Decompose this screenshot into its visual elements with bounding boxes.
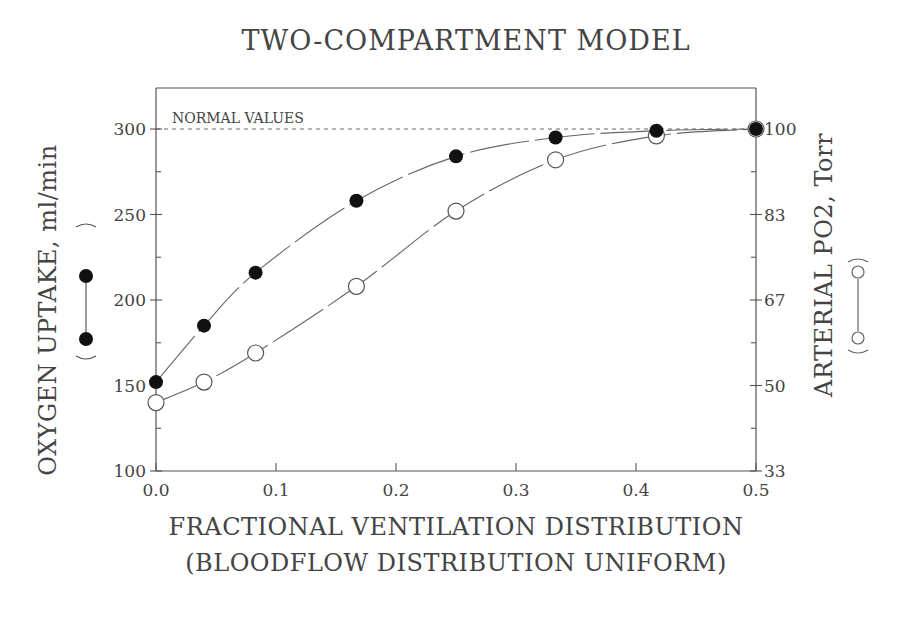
x-tick-label: 0.2	[382, 480, 409, 500]
open-circle-marker	[348, 278, 364, 294]
filled-circle-marker	[349, 194, 363, 208]
filled-circle-marker	[197, 319, 211, 333]
open-circle-marker	[248, 345, 264, 361]
y-left-tick-label: 250	[114, 205, 146, 225]
y-right-tick-label: 67	[764, 290, 786, 310]
open-circle-marker	[196, 374, 212, 390]
y-right-tick-label: 50	[764, 376, 786, 396]
y-left-legend-filled-circle	[76, 224, 96, 359]
x-axis-label: FRACTIONAL VENTILATION DISTRIBUTION	[169, 513, 744, 541]
x-axis-label-line2: (BLOODFLOW DISTRIBUTION UNIFORM)	[185, 549, 727, 577]
x-tick-label: 0.4	[622, 480, 649, 500]
filled-circle-marker	[449, 149, 463, 163]
y-right-tick-label: 100	[764, 119, 796, 139]
arterial-po2-curve	[156, 129, 756, 403]
oxygen-uptake-curve	[156, 129, 756, 382]
filled-circle-marker	[149, 375, 163, 389]
filled-circle-marker	[749, 122, 763, 136]
x-tick-label: 0.1	[262, 480, 289, 500]
filled-circle-marker	[249, 266, 263, 280]
y-right-tick-label: 83	[764, 205, 786, 225]
data-markers	[148, 121, 764, 411]
y-right-axis-label: ARTERIAL PO2, Torr	[810, 133, 838, 398]
normal-values-label: NORMAL VALUES	[172, 110, 304, 126]
chart: TWO-COMPARTMENT MODEL NORMAL VALUES 0.00…	[0, 0, 902, 617]
chart-title: TWO-COMPARTMENT MODEL	[241, 25, 690, 56]
data-curves	[156, 129, 756, 403]
x-tick-label: 0.3	[502, 480, 529, 500]
plot-frame	[156, 88, 756, 471]
y-left-tick-label: 150	[114, 376, 146, 396]
x-tick-label: 0.0	[142, 480, 169, 500]
y-left-tick-label: 200	[114, 290, 146, 310]
filled-circle-marker	[649, 124, 663, 138]
axis-ticks: 0.00.10.20.30.40.51001502002503003350678…	[114, 119, 797, 500]
y-left-tick-label: 300	[114, 119, 146, 139]
y-right-legend-open-circle	[848, 259, 868, 353]
open-circle-marker	[448, 203, 464, 219]
open-circle-marker	[148, 395, 164, 411]
open-circle-marker	[548, 152, 564, 168]
y-left-axis-label: OXYGEN UPTAKE, ml/min	[34, 144, 62, 476]
filled-circle-marker	[549, 131, 563, 145]
x-tick-label: 0.5	[742, 480, 769, 500]
y-right-tick-label: 33	[764, 461, 786, 481]
y-left-tick-label: 100	[114, 461, 146, 481]
